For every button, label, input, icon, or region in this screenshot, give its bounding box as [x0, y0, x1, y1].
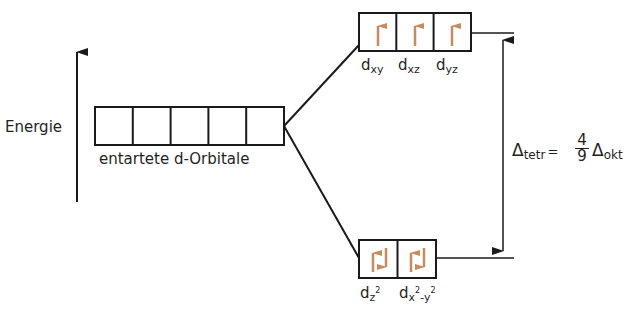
splitting-formula-left: Δtetr= — [512, 140, 558, 160]
degenerate-orbitals-label: entartete d-Orbitale — [99, 150, 249, 168]
orbital-label-dxz: dxz — [398, 56, 420, 74]
upper-electrons — [378, 26, 452, 46]
orbital-label-dz2: dz2 — [360, 284, 380, 302]
orbital-label-dxy: dxy — [361, 56, 384, 74]
splitting-fraction: 4 9 — [575, 133, 589, 164]
splitting-formula-right: Δokt — [592, 140, 623, 160]
orbital-label-dyz: dyz — [436, 56, 458, 74]
energy-axis-label: Energie — [5, 118, 62, 136]
splitting-lines — [284, 45, 359, 258]
degenerate-orbital-boxes — [95, 107, 284, 145]
orbital-label-dx2-y2: dx2-y2 — [399, 284, 436, 302]
